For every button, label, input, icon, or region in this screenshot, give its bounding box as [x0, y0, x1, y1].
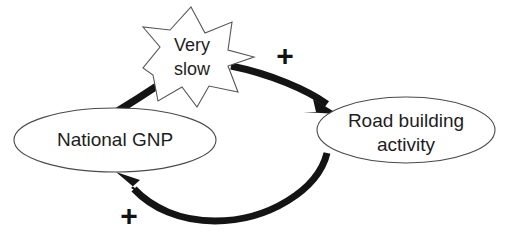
node-national-gnp[interactable]: National GNP	[14, 108, 216, 172]
node-road-building-activity-label-line-1: Road building	[348, 110, 464, 131]
causal-loop-diagram: National GNP Road building activity Very…	[0, 0, 506, 244]
delay-marker-very-slow[interactable]: Very slow	[143, 7, 254, 107]
node-national-gnp-label: National GNP	[57, 129, 173, 150]
arrowhead-into-national-gnp	[116, 172, 143, 195]
polarity-marker-top: +	[276, 39, 294, 72]
node-road-building-activity-label-line-2: activity	[377, 134, 436, 155]
polarity-marker-bottom: +	[120, 199, 138, 232]
node-road-building-activity[interactable]: Road building activity	[317, 97, 495, 163]
delay-marker-label-line-2: slow	[174, 59, 211, 79]
starburst-icon	[143, 7, 254, 107]
delay-marker-label-line-1: Very	[174, 35, 210, 55]
diagram-canvas: National GNP Road building activity Very…	[0, 0, 506, 244]
